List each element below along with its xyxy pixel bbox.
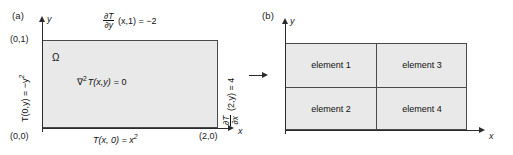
bc-top-numerator: ∂T: [103, 12, 114, 21]
x-axis-b: [285, 130, 481, 131]
figure-container: (a) y x (0,1) (0,0) (2,0) Ω ∇2T(x,y)= 0 …: [0, 0, 513, 155]
bc-right-rest: (2,y) = 4: [226, 78, 236, 111]
bc-top-fraction: ∂T ∂y: [103, 12, 114, 31]
panel-a-label: (a): [12, 10, 24, 21]
bc-top-rest: (x,1) = −2: [118, 16, 157, 26]
bc-left-text: T(0,y) = −y: [20, 78, 30, 122]
element-1-label: element 1: [291, 60, 371, 70]
y-axis-label-a: y: [47, 14, 52, 24]
transform-arrow-icon: [262, 72, 268, 78]
x-axis-label-a: x: [238, 126, 243, 136]
y-axis-a: [42, 22, 43, 132]
panel-b-label: (b): [262, 10, 274, 21]
y-axis-arrowhead-b: [282, 18, 288, 24]
bc-top: ∂T ∂y (x,1) = −2: [103, 12, 156, 31]
element-2-label: element 2: [291, 104, 371, 114]
coord-label-origin: (0,0): [10, 131, 29, 141]
element-4-label: element 4: [382, 104, 462, 114]
y-axis-label-b: y: [290, 16, 295, 26]
bc-left-exponent: 2: [18, 75, 25, 79]
bc-bottom-text: T(x, 0) = x: [93, 135, 134, 145]
governing-equation-function: T(x,y): [88, 77, 111, 87]
governing-equation: ∇2T(x,y)= 0: [77, 75, 127, 87]
coord-label-top-left: (0,1): [10, 34, 29, 44]
mesh-divider-horizontal: [285, 87, 467, 88]
laplacian-power: 2: [83, 75, 87, 82]
bc-bottom-exponent: 2: [134, 133, 138, 140]
element-3-label: element 3: [382, 60, 462, 70]
y-axis-arrowhead-a: [39, 16, 45, 22]
bc-right-fraction: ∂T ∂x: [222, 115, 241, 126]
bc-right-denominator: ∂x: [230, 115, 240, 126]
coord-label-bottom-right: (2,0): [199, 131, 218, 141]
x-axis-a: [42, 128, 230, 129]
domain-rectangle-a: [42, 40, 218, 128]
x-axis-arrowhead-b: [479, 127, 485, 133]
bc-left: T(0,y) = −y2: [18, 75, 30, 122]
domain-symbol-omega: Ω: [52, 52, 59, 63]
bc-top-denominator: ∂y: [103, 20, 114, 30]
y-axis-b: [285, 24, 286, 134]
bc-right: ∂T ∂x (2,y) = 4: [222, 78, 241, 126]
x-axis-label-b: x: [489, 131, 494, 141]
governing-equation-equals: = 0: [114, 77, 127, 87]
bc-right-numerator: ∂T: [222, 115, 231, 126]
transform-arrow-shaft: [249, 75, 263, 76]
bc-bottom: T(x, 0) = x2: [93, 133, 138, 145]
